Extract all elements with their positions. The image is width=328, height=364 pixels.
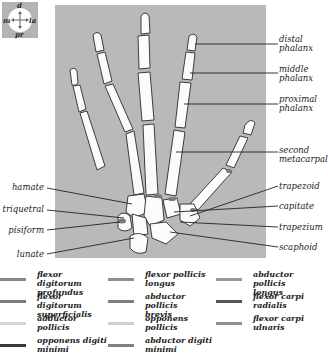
legend-swatch bbox=[0, 300, 26, 303]
thumb-bones bbox=[190, 120, 255, 210]
legend-item: flexor carpiulnaris bbox=[216, 314, 324, 336]
label-capitate: capitate bbox=[279, 202, 314, 211]
legend-swatch bbox=[216, 278, 242, 281]
legend-swatch bbox=[216, 300, 242, 303]
legend-item: abductor digitiminimi bbox=[108, 336, 216, 358]
legend-item: adductorpollicis bbox=[0, 314, 108, 336]
label-trapezium: trapezium bbox=[279, 223, 323, 232]
little-finger-bones bbox=[70, 68, 105, 170]
legend-swatch bbox=[108, 344, 134, 347]
middle-finger-bones bbox=[138, 13, 158, 195]
label-pisiform: pisiform bbox=[0, 226, 44, 235]
label-middle-phalanx: middle phalanx bbox=[279, 65, 313, 83]
legend-item: flexor digitorumprofundus bbox=[0, 270, 108, 292]
label-proximal-phalanx: proximal phalanx bbox=[279, 95, 317, 113]
label-second-metacarpal: second metacarpal bbox=[279, 146, 328, 164]
legend-item: flexor pollicislongus bbox=[108, 270, 216, 292]
label-distal-phalanx: distal phalanx bbox=[279, 35, 313, 53]
label-lunate: lunate bbox=[0, 250, 44, 259]
label-hamate: hamate bbox=[0, 183, 44, 192]
legend-item: abductor pollicisbrevis bbox=[108, 292, 216, 314]
legend-item: flexor digitorumsuperficialis bbox=[0, 292, 108, 314]
label-scaphoid: scaphoid bbox=[279, 243, 317, 252]
legend-swatch bbox=[108, 322, 134, 325]
legend-item: opponenspollicis bbox=[108, 314, 216, 336]
legend-swatch bbox=[0, 322, 26, 325]
legend-item: abductor pollicislongus bbox=[216, 270, 324, 292]
ring-finger-bones bbox=[93, 33, 144, 196]
legend-swatch bbox=[216, 322, 242, 325]
label-triquetral: triquetral bbox=[0, 205, 44, 214]
index-finger-bones bbox=[165, 34, 197, 196]
carpal-bones bbox=[118, 194, 200, 253]
legend-swatch bbox=[108, 300, 134, 303]
legend-swatch bbox=[0, 344, 26, 347]
legend-item: flexor carpiradialis bbox=[216, 292, 324, 314]
label-trapezoid: trapezoid bbox=[279, 182, 320, 191]
legend-swatch bbox=[108, 278, 134, 281]
legend-item: opponens digitiminimi bbox=[0, 336, 108, 358]
legend-swatch bbox=[0, 278, 26, 281]
